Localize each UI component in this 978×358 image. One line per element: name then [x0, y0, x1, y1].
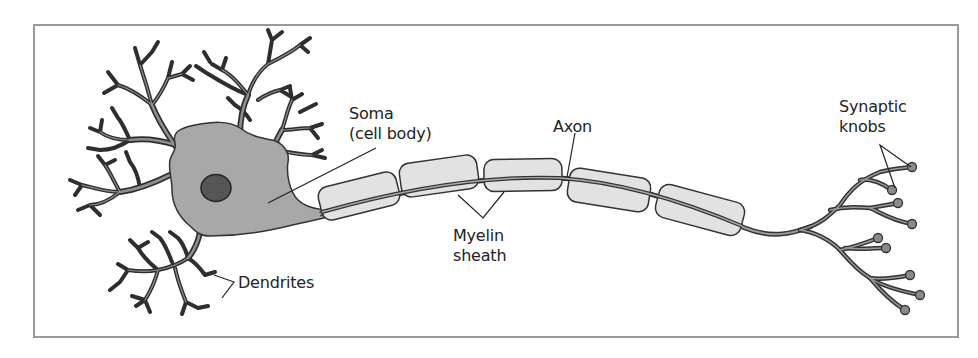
neuron-diagram: Soma (cell body) Axon Myelin sheath Dend… [0, 0, 978, 358]
axon-terminals [800, 167, 920, 310]
soma-label-line2: (cell body) [349, 124, 431, 144]
synaptic-knobs-label: Synaptic knobs [839, 97, 907, 137]
myelin-label-line1: Myelin [453, 226, 506, 246]
synaptic-label-line1: Synaptic [839, 97, 907, 117]
soma-label-line1: Soma [349, 104, 431, 124]
myelin-label-line2: sheath [453, 246, 506, 266]
dendrites-label: Dendrites [238, 273, 314, 293]
myelin-sheath-label: Myelin sheath [453, 226, 506, 266]
axon-label: Axon [553, 117, 592, 137]
neuron-illustration [0, 0, 978, 358]
nucleus [201, 175, 231, 202]
synaptic-label-line2: knobs [839, 117, 907, 137]
soma [169, 122, 324, 236]
soma-label: Soma (cell body) [349, 104, 431, 144]
